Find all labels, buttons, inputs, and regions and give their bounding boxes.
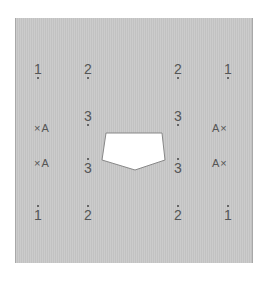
marker-dot bbox=[227, 77, 229, 79]
marker-top-3: 2 bbox=[168, 62, 188, 80]
marker-mid-lower-right: 3 bbox=[168, 157, 188, 175]
marker-number: 1 bbox=[28, 208, 48, 222]
marker-number: 1 bbox=[218, 62, 238, 76]
label-right-lower: A× bbox=[212, 157, 228, 169]
marker-top-2: 2 bbox=[78, 62, 98, 80]
obstacle-shape bbox=[0, 0, 263, 286]
marker-bottom-4: 1 bbox=[218, 204, 238, 222]
marker-number: 3 bbox=[78, 161, 98, 175]
marker-mid-upper-left: 3 bbox=[78, 109, 98, 127]
marker-dot bbox=[87, 124, 89, 126]
marker-mid-upper-right: 3 bbox=[168, 109, 188, 127]
marker-mid-lower-left: 3 bbox=[78, 157, 98, 175]
marker-number: 2 bbox=[168, 62, 188, 76]
marker-dot bbox=[177, 77, 179, 79]
marker-top-1: 1 bbox=[28, 62, 48, 80]
marker-dot bbox=[87, 77, 89, 79]
marker-dot bbox=[37, 77, 39, 79]
label-left-lower: ×A bbox=[34, 157, 50, 169]
marker-bottom-3: 2 bbox=[168, 204, 188, 222]
marker-bottom-1: 1 bbox=[28, 204, 48, 222]
marker-number: 2 bbox=[78, 62, 98, 76]
label-left-upper: ×A bbox=[34, 122, 50, 134]
label-right-upper: A× bbox=[212, 122, 228, 134]
marker-top-4: 1 bbox=[218, 62, 238, 80]
marker-dot bbox=[177, 124, 179, 126]
marker-number: 2 bbox=[168, 208, 188, 222]
marker-number: 2 bbox=[78, 208, 98, 222]
marker-number: 3 bbox=[168, 161, 188, 175]
marker-number: 3 bbox=[168, 109, 188, 123]
marker-bottom-2: 2 bbox=[78, 204, 98, 222]
marker-number: 1 bbox=[218, 208, 238, 222]
marker-number: 1 bbox=[28, 62, 48, 76]
obstacle-polygon bbox=[102, 133, 165, 170]
marker-number: 3 bbox=[78, 109, 98, 123]
